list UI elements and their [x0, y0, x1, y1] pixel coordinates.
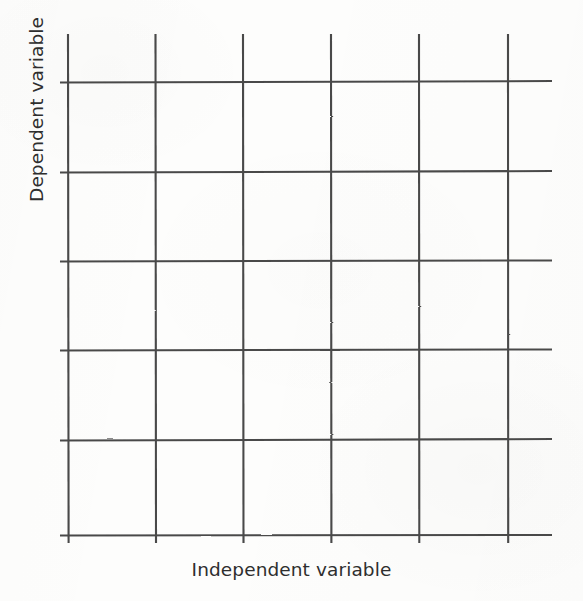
grid-lines: [0, 0, 583, 601]
figure-canvas: Dependent variable Independent variable: [0, 0, 583, 601]
y-axis-label: Dependent variable: [26, 0, 47, 401]
horizontal-grid-lines: [60, 81, 552, 536]
x-axis-label: Independent variable: [0, 559, 583, 580]
vertical-grid-lines: [68, 34, 508, 543]
